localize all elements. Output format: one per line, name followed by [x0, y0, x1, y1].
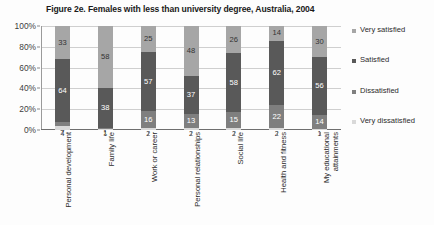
bar-column[interactable]: 336444	[55, 26, 70, 130]
bar-value-label: 38	[101, 104, 109, 112]
bar-value-label: 14	[272, 29, 280, 37]
bar-stack: 1462222	[269, 26, 284, 130]
bar-segment-dissatisfied[interactable]: 22	[269, 105, 284, 128]
legend-item[interactable]: Dissatisfied	[352, 87, 434, 95]
bar-segment-satisfied[interactable]: 37	[184, 76, 199, 114]
x-tick-mark	[234, 132, 235, 135]
chart-container: Figure 2e. Females with less than univer…	[0, 0, 434, 225]
legend-item[interactable]: Very dissatisfied	[352, 117, 434, 125]
bar-stack: 2658152	[226, 26, 241, 130]
legend-swatch-icon	[352, 29, 356, 33]
bar-column[interactable]: 2658152	[226, 26, 241, 130]
x-tick-mark	[191, 132, 192, 135]
bar-value-label: 57	[144, 78, 152, 86]
y-tick-mark	[37, 26, 40, 27]
x-category-label: Work or career	[151, 132, 160, 222]
plot-area: 3364445838112557162483713226581521462222…	[41, 26, 341, 130]
bar-column[interactable]: 2557162	[141, 26, 156, 130]
x-category-label: Social life	[237, 132, 246, 222]
bar-segment-satisfied[interactable]: 57	[141, 52, 156, 111]
bar-segment-satisfied[interactable]: 58	[226, 53, 241, 113]
legend-label: Very satisfied	[360, 26, 405, 34]
bar-segment-satisfied[interactable]: 64	[55, 59, 70, 122]
bar-value-label: 22	[272, 113, 280, 121]
bar-value-label: 56	[315, 82, 323, 90]
x-tick-mark	[320, 132, 321, 135]
y-axis: 0%20%40%60%80%100%	[0, 26, 40, 130]
bar-value-label: 15	[230, 116, 238, 124]
legend-swatch-icon	[352, 90, 356, 94]
legend-item[interactable]: Very satisfied	[352, 26, 434, 34]
bar-segment-dissatisfied[interactable]: 14	[312, 115, 327, 129]
bar-value-label: 58	[101, 53, 109, 61]
bar-segment-satisfied[interactable]: 62	[269, 41, 284, 105]
bar-stack: 2557162	[141, 26, 156, 130]
bar-segment-dissatisfied[interactable]: 15	[226, 112, 241, 127]
bar-column[interactable]: 4837132	[184, 26, 199, 130]
bar-stack: 3056141	[312, 26, 327, 130]
bar-segment-very-satisfied[interactable]: 30	[312, 26, 327, 57]
x-category-label: My educational attainments	[323, 132, 340, 222]
y-tick-label: 20%	[19, 104, 36, 114]
y-tick-label: 40%	[19, 83, 36, 93]
bar-value-label: 48	[187, 47, 195, 55]
bar-column[interactable]: 1462222	[269, 26, 284, 130]
bar-segment-very-dissatisfied[interactable]: 1	[312, 129, 327, 130]
chart-legend: Very satisfiedSatisfiedDissatisfiedVery …	[352, 26, 434, 147]
bar-segment-very-dissatisfied[interactable]: 1	[98, 129, 113, 130]
y-tick-mark	[37, 67, 40, 68]
y-tick-label: 100%	[15, 21, 36, 31]
bar-segment-very-dissatisfied[interactable]: 2	[269, 128, 284, 130]
legend-swatch-icon	[352, 59, 356, 63]
y-tick-mark	[37, 130, 40, 131]
legend-swatch-icon	[352, 120, 356, 124]
bar-stack: 583811	[98, 26, 113, 130]
y-tick-mark	[37, 88, 40, 89]
bar-stack: 336444	[55, 26, 70, 130]
bar-value-label: 14	[315, 118, 323, 126]
legend-label: Satisfied	[360, 56, 389, 64]
bar-segment-very-dissatisfied[interactable]: 4	[55, 126, 70, 130]
x-category-label: Personal relationships	[194, 132, 203, 222]
bar-segment-very-dissatisfied[interactable]: 2	[226, 128, 241, 130]
bar-segment-very-satisfied[interactable]: 26	[226, 26, 241, 53]
x-category-label: Personal development	[65, 132, 74, 222]
y-tick-label: 80%	[19, 42, 36, 52]
x-tick-mark	[148, 132, 149, 135]
bar-value-label: 37	[187, 91, 195, 99]
bar-column[interactable]: 583811	[98, 26, 113, 130]
bar-segment-very-dissatisfied[interactable]: 2	[184, 128, 199, 130]
x-category-label: Health and fitness	[280, 132, 289, 222]
bar-series-group: 3364445838112557162483713226581521462222…	[41, 26, 341, 130]
bar-segment-very-satisfied[interactable]: 25	[141, 26, 156, 52]
bar-value-label: 64	[58, 87, 66, 95]
bar-segment-dissatisfied[interactable]: 13	[184, 114, 199, 128]
bar-stack: 4837132	[184, 26, 199, 130]
y-tick-label: 0%	[24, 125, 36, 135]
bar-segment-satisfied[interactable]: 56	[312, 57, 327, 115]
legend-label: Very dissatisfied	[360, 117, 415, 125]
y-tick-mark	[37, 109, 40, 110]
bar-value-label: 62	[272, 69, 280, 77]
x-axis-category-labels: Personal developmentFamily lifeWork or c…	[41, 132, 341, 224]
bar-segment-very-satisfied[interactable]: 14	[269, 26, 284, 41]
y-tick-label: 60%	[19, 63, 36, 73]
chart-title: Figure 2e. Females with less than univer…	[46, 4, 346, 14]
bar-segment-very-satisfied[interactable]: 58	[98, 26, 113, 88]
bar-segment-satisfied[interactable]: 38	[98, 88, 113, 128]
x-tick-mark	[277, 132, 278, 135]
bar-value-label: 26	[230, 36, 238, 44]
bar-segment-very-satisfied[interactable]: 33	[55, 26, 70, 59]
bar-segment-very-satisfied[interactable]: 48	[184, 26, 199, 76]
bar-value-label: 30	[315, 38, 323, 46]
legend-item[interactable]: Satisfied	[352, 56, 434, 64]
bar-value-label: 25	[144, 35, 152, 43]
y-tick-mark	[37, 46, 40, 47]
bar-value-label: 16	[144, 116, 152, 124]
legend-label: Dissatisfied	[360, 87, 399, 95]
bar-segment-dissatisfied[interactable]: 16	[141, 111, 156, 128]
bar-column[interactable]: 3056141	[312, 26, 327, 130]
bar-segment-very-dissatisfied[interactable]: 2	[141, 128, 156, 130]
bar-value-label: 13	[187, 117, 195, 125]
x-category-label: Family life	[108, 132, 117, 222]
